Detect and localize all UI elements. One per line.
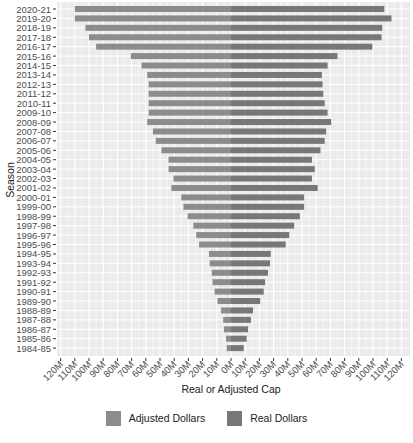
bar-real — [231, 44, 372, 50]
legend: Adjusted Dollars Real Dollars — [0, 406, 413, 430]
bar-real — [231, 185, 318, 191]
bar-real — [231, 336, 247, 342]
bar-adjusted — [209, 251, 231, 257]
bar-real — [231, 260, 270, 266]
bar-adjusted — [156, 138, 231, 144]
bar-real — [231, 279, 265, 285]
bar-real — [231, 326, 248, 332]
bar-real — [231, 15, 391, 21]
bar-real — [231, 289, 264, 295]
bar-real — [231, 63, 328, 69]
bar-adjusted — [147, 119, 231, 125]
bar-adjusted — [149, 81, 231, 87]
bar-real — [231, 6, 384, 12]
bar-real — [231, 100, 325, 106]
x-axis-title: Real or Adjusted Cap — [181, 383, 280, 395]
bar-real — [231, 157, 312, 163]
bar-adjusted — [227, 345, 231, 351]
bar-adjusted — [188, 213, 231, 219]
bar-adjusted — [169, 157, 231, 163]
bar-adjusted — [218, 298, 231, 304]
bar-adjusted — [173, 176, 231, 182]
bar-adjusted — [171, 185, 231, 191]
bar-adjusted — [213, 279, 231, 285]
bar-real — [231, 110, 328, 116]
bar-adjusted — [193, 223, 231, 229]
bar-real — [231, 138, 325, 144]
bar-adjusted — [224, 326, 231, 332]
y-axis-title: Season — [4, 162, 16, 198]
bar-adjusted — [75, 15, 231, 21]
bar-adjusted — [96, 44, 231, 50]
bar-adjusted — [149, 91, 231, 97]
bar-adjusted — [169, 166, 231, 172]
y-axis: 2020-212019-202018-192017-182016-172015-… — [16, 4, 56, 354]
legend-item-real: Real Dollars — [227, 411, 307, 426]
bar-real — [231, 81, 323, 87]
x-axis: 120M110M100M90M80M70M60M50M40M30M20M10M0… — [40, 358, 405, 383]
bar-adjusted — [89, 34, 231, 40]
legend-label-real: Real Dollars — [250, 412, 307, 424]
legend-swatch-adjusted — [106, 411, 121, 426]
legend-label-adjusted: Adjusted Dollars — [129, 412, 205, 424]
bar-adjusted — [149, 110, 231, 116]
diverging-bar-chart: 2020-212019-202018-192017-182016-172015-… — [0, 0, 413, 443]
bar-adjusted — [215, 289, 231, 295]
bar-real — [231, 128, 326, 134]
legend-swatch-real — [227, 411, 242, 426]
bar-real — [231, 194, 304, 200]
bar-real — [231, 251, 271, 257]
bar-adjusted — [223, 317, 231, 323]
bar-adjusted — [161, 147, 231, 153]
bar-real — [231, 213, 300, 219]
bar-adjusted — [153, 128, 231, 134]
bar-real — [231, 232, 289, 238]
bar-real — [231, 91, 323, 97]
bar-adjusted — [196, 232, 231, 238]
bar-adjusted — [181, 194, 231, 200]
bar-real — [231, 53, 338, 59]
bar-real — [231, 166, 315, 172]
bar-adjusted — [210, 260, 231, 266]
bar-real — [231, 34, 382, 40]
bar-adjusted — [75, 6, 231, 12]
bar-adjusted — [142, 63, 231, 69]
bar-adjusted — [221, 307, 231, 313]
bar-adjusted — [199, 242, 231, 248]
bar-adjusted — [226, 336, 231, 342]
bar-real — [231, 307, 253, 313]
bar-real — [231, 345, 244, 351]
y-tick-label: 1984-85 — [16, 343, 51, 354]
bar-real — [231, 25, 382, 31]
bar-adjusted — [131, 53, 231, 59]
bar-real — [231, 223, 294, 229]
bar-adjusted — [183, 204, 231, 210]
bar-real — [231, 204, 304, 210]
bar-real — [231, 119, 331, 125]
bar-adjusted — [147, 72, 231, 78]
bar-real — [231, 242, 286, 248]
bar-real — [231, 147, 320, 153]
bar-real — [231, 176, 312, 182]
bar-real — [231, 317, 251, 323]
bar-adjusted — [149, 100, 231, 106]
legend-item-adjusted: Adjusted Dollars — [106, 411, 205, 426]
bar-real — [231, 270, 268, 276]
bar-adjusted — [85, 25, 231, 31]
bar-real — [231, 72, 322, 78]
bar-real — [231, 298, 260, 304]
bar-adjusted — [212, 270, 231, 276]
